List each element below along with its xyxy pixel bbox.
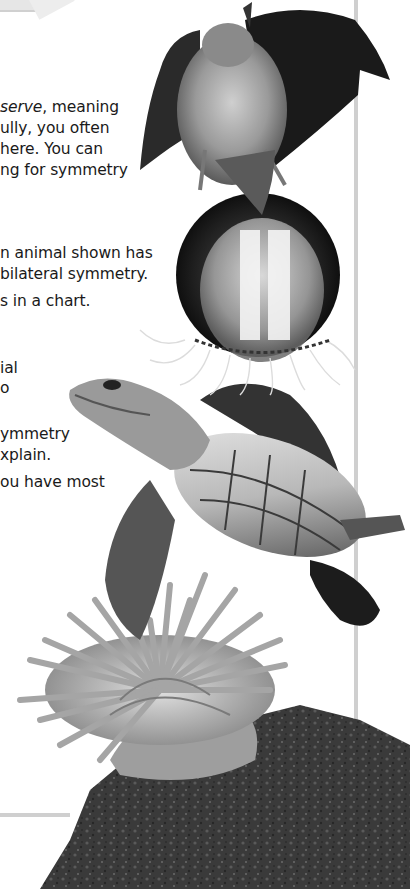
bat-image <box>140 2 390 215</box>
sea-turtle-image <box>69 379 405 640</box>
animal-collage <box>0 0 410 889</box>
comb-jelly-image <box>140 193 355 395</box>
